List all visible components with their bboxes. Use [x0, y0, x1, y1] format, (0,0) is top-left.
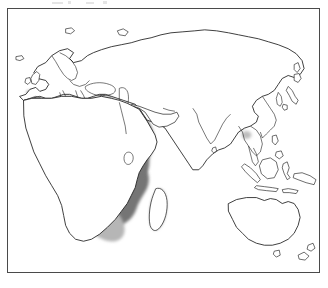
coast-svalbard [66, 28, 75, 34]
coast-novaya-zemlya [117, 29, 128, 36]
distribution-map [8, 9, 319, 272]
scan-artifact [103, 1, 107, 4]
coast-malay-peninsula [248, 146, 258, 166]
coast-java [254, 186, 278, 192]
coast-mindanao [275, 151, 283, 159]
coast-japan-honshu [286, 86, 298, 104]
coast-luzon [272, 135, 278, 145]
coast-japan-kyushu [282, 104, 287, 110]
coast-australia [229, 198, 301, 246]
figure-container: Low / peripheral range Core range High d… [0, 0, 328, 288]
coast-new-zealand-south [298, 252, 309, 260]
scan-artifact [68, 1, 71, 4]
coast-madagascar [149, 188, 167, 230]
coast-great-britain [31, 72, 40, 85]
scan-artifact [86, 2, 94, 4]
coast-africa [24, 96, 157, 241]
coast-indochina [239, 126, 263, 156]
coast-new-guinea [293, 173, 316, 185]
map-frame [7, 8, 320, 273]
coast-korea [276, 92, 282, 106]
coast-ireland [25, 77, 31, 84]
coast-china-east [260, 96, 276, 138]
coast-new-zealand-north [307, 243, 315, 251]
coast-tasmania [273, 250, 280, 257]
coast-borneo [259, 158, 278, 179]
coast-lesser-sunda [282, 189, 298, 194]
coast-iceland [16, 56, 24, 61]
coast-sulawesi [282, 162, 290, 180]
coastline-group [16, 28, 316, 260]
scan-artifact [52, 2, 63, 4]
coast-sumatra [241, 164, 260, 183]
